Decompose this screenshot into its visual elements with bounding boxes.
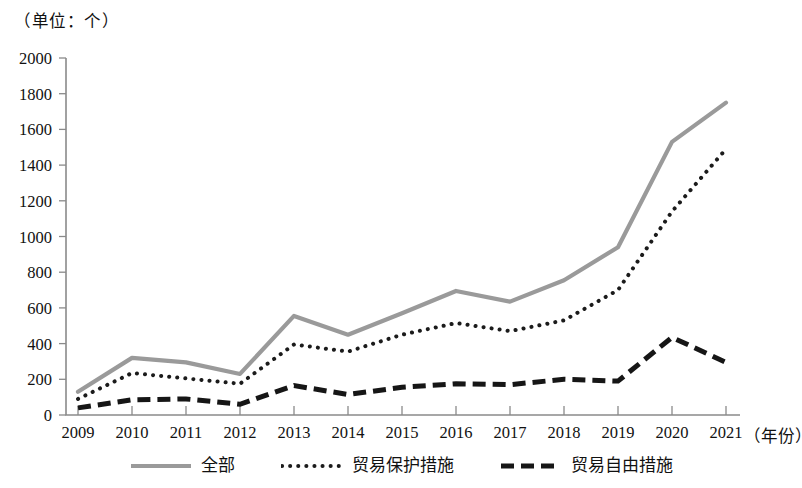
y-tick-label: 1400 (19, 156, 52, 175)
chart-container: （单位：个） 020040060080010001200140016001800… (0, 0, 802, 488)
y-tick-label: 1200 (19, 192, 52, 211)
y-axis-ticks: 0200400600800100012001400160018002000 (19, 49, 66, 425)
y-tick-label: 1600 (19, 120, 52, 139)
x-tick-label: 2017 (494, 423, 527, 442)
x-tick-label: 2015 (386, 423, 419, 442)
x-tick-label: 2013 (278, 423, 311, 442)
legend-swatch-icon (500, 459, 562, 473)
y-tick-label: 600 (27, 299, 52, 318)
x-tick-label: 2019 (602, 423, 635, 442)
x-tick-label: 2009 (62, 423, 95, 442)
x-tick-label: 2010 (116, 423, 149, 442)
series-line-solid (78, 103, 726, 392)
y-tick-label: 1000 (19, 228, 52, 247)
x-tick-label: 2011 (170, 423, 202, 442)
legend-label: 全部 (201, 457, 235, 474)
y-tick-label: 800 (27, 263, 52, 282)
x-tick-label: 2020 (656, 423, 689, 442)
x-axis-unit-caption: （年份） (744, 423, 802, 447)
legend-item-1[interactable]: 全部 (130, 457, 235, 474)
x-tick-label: 2021 (710, 423, 743, 442)
x-tick-label: 2012 (224, 423, 257, 442)
chart-legend: 全部贸易保护措施贸易自由措施 (0, 457, 802, 474)
legend-label: 贸易自由措施 (571, 457, 673, 474)
y-tick-label: 2000 (19, 49, 52, 68)
series-line-dashed (78, 337, 726, 408)
legend-label: 贸易保护措施 (352, 457, 454, 474)
legend-swatch-icon (130, 459, 192, 473)
legend-swatch-icon (281, 459, 343, 473)
x-axis-ticks: 2009201020112012201320142015201620172018… (62, 406, 743, 442)
y-tick-label: 400 (27, 335, 52, 354)
legend-item-2[interactable]: 贸易保护措施 (281, 457, 454, 474)
x-tick-label: 2018 (548, 423, 581, 442)
y-tick-label: 0 (44, 406, 52, 425)
line-chart-svg: 0200400600800100012001400160018002000 20… (0, 0, 802, 450)
y-tick-label: 1800 (19, 85, 52, 104)
series-lines (78, 103, 726, 408)
x-tick-label: 2016 (440, 423, 473, 442)
y-tick-label: 200 (27, 370, 52, 389)
legend-item-3[interactable]: 贸易自由措施 (500, 457, 673, 474)
x-tick-label: 2014 (332, 423, 365, 442)
